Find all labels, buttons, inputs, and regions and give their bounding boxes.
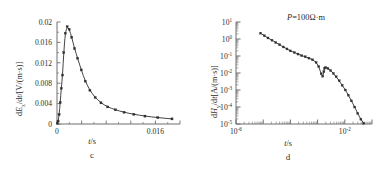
data-point [350, 100, 352, 102]
data-point [61, 74, 63, 76]
panel-c: 00.0040.0080.0120.0160.0200.016 dEx/dt/[… [0, 0, 190, 172]
axis-tick-label: 101 [222, 17, 233, 27]
data-point [301, 55, 303, 57]
data-point [94, 96, 96, 98]
data-point [260, 32, 262, 34]
data-point [89, 89, 91, 91]
data-point [56, 122, 58, 124]
axis-tick-label: 10-2 [339, 126, 351, 136]
data-point [171, 118, 173, 120]
data-point [80, 69, 82, 71]
data-point [68, 28, 70, 30]
panel-caption-c: c [72, 150, 112, 160]
y-tick-label: 0.016 [35, 38, 52, 47]
data-point [133, 113, 135, 115]
data-point [64, 32, 66, 34]
data-point [57, 120, 59, 122]
data-point [275, 42, 277, 44]
data-point [312, 59, 314, 61]
data-point [71, 36, 73, 38]
y-tick-label: 0.004 [35, 99, 52, 108]
data-point [271, 39, 273, 41]
data-point [308, 57, 310, 59]
data-point [330, 70, 332, 72]
y-axis-label-c: dEx/dt/[V/(m·s)] [15, 62, 24, 116]
data-point [59, 102, 61, 104]
data-point [263, 35, 265, 37]
data-point [100, 102, 102, 104]
data-point [73, 47, 75, 49]
data-point [304, 56, 306, 58]
data-point [315, 61, 317, 63]
x-tick-label: 0 [55, 127, 59, 136]
axis-tick-label: 10-3 [220, 85, 232, 95]
data-point [77, 57, 79, 59]
y-axis-label-d: dHy/dt[A/(m·s)] [210, 65, 219, 118]
data-point [114, 109, 116, 111]
panel-caption-d: d [268, 152, 308, 162]
data-point [144, 115, 146, 117]
data-point [363, 122, 365, 124]
data-point [344, 89, 346, 91]
data-point [323, 71, 325, 73]
data-point [354, 106, 356, 108]
data-point [279, 44, 281, 46]
data-point [84, 80, 86, 82]
data-point [267, 37, 269, 39]
x-axis-label-c: t/s [72, 137, 112, 146]
data-point [320, 73, 322, 75]
resistivity-annotation: P=100Ω·m [287, 13, 325, 22]
data-point [66, 26, 68, 28]
data-point [322, 75, 324, 77]
x-tick-label: 0.016 [147, 127, 164, 136]
axis-tick-label: 10-1 [220, 51, 232, 61]
data-point [293, 52, 295, 54]
data-point [63, 52, 65, 54]
axis-tick-label: 10-4 [220, 102, 232, 112]
data-point [338, 80, 340, 82]
x-axis-label-d: t/s [268, 139, 308, 148]
figure-container: 00.0040.0080.0120.0160.0200.016 dEx/dt/[… [0, 0, 381, 172]
data-point [286, 48, 288, 50]
data-point [357, 112, 359, 114]
data-point [107, 106, 109, 108]
data-point [289, 50, 291, 52]
data-point [325, 67, 327, 69]
data-point [297, 53, 299, 55]
data-point [360, 118, 362, 120]
axis-tick-label: 100 [222, 34, 233, 44]
data-point [327, 67, 329, 69]
data-point [318, 66, 320, 68]
data-point [123, 111, 125, 113]
data-point [332, 72, 334, 74]
y-tick-label: 0.02 [39, 18, 52, 27]
y-tick-label: 0 [48, 120, 52, 129]
data-point [347, 94, 349, 96]
data-point [341, 84, 343, 86]
data-point [157, 117, 159, 119]
data-point [335, 76, 337, 78]
y-tick-label: 0.008 [35, 79, 52, 88]
data-point [58, 114, 60, 116]
data-point [60, 87, 62, 89]
plot-c-canvas: 00.0040.0080.0120.0160.0200.016 [0, 0, 190, 172]
axis-tick-label: 10-2 [220, 68, 232, 78]
y-tick-label: 0.012 [35, 59, 52, 68]
axis-tick-label: 10-6 [230, 126, 242, 136]
data-point [282, 46, 284, 48]
data-curve-d [261, 33, 364, 123]
